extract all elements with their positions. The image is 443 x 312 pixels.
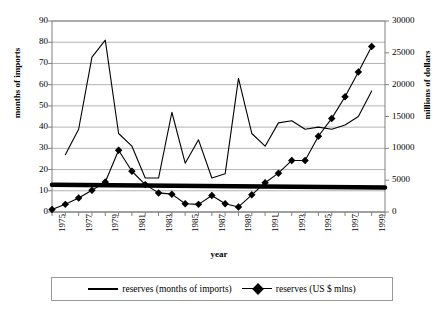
legend-label-months: reserves (months of imports) (122, 284, 232, 294)
reserves-chart: months of imports millions of dollars ye… (0, 0, 443, 312)
legend-item-months: reserves (months of imports) (88, 284, 232, 294)
legend-diamond-swatch (242, 285, 272, 293)
plot-area (0, 0, 443, 312)
legend-line-swatch (88, 288, 118, 290)
legend-item-usd: reserves (US $ mlns) (242, 284, 356, 294)
chart-legend: reserves (months of imports) reserves (U… (51, 277, 393, 301)
legend-label-usd: reserves (US $ mlns) (276, 284, 356, 294)
